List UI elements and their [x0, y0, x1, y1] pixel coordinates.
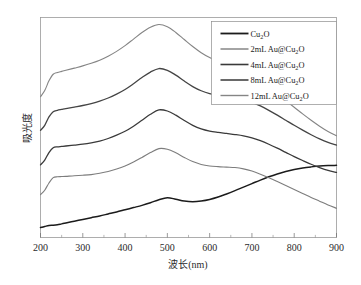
- x-tick-label-900: 900: [329, 242, 344, 253]
- x-tick-label-500: 500: [160, 242, 175, 253]
- x-tick-label-400: 400: [118, 242, 133, 253]
- x-axis-title: 波长(nm): [168, 258, 207, 271]
- x-tick-label-700: 700: [244, 242, 259, 253]
- x-tick-label-800: 800: [287, 242, 302, 253]
- legend-label-0[interactable]: Cu2O: [251, 30, 270, 40]
- x-tick-label-200: 200: [33, 242, 48, 253]
- spectra-plot: Cu2O2mL Au@Cu2O4mL Au@Cu2O8mL Au@Cu2O12m…: [0, 0, 361, 285]
- chart-legend[interactable]: Cu2O2mL Au@Cu2O4mL Au@Cu2O8mL Au@Cu2O12m…: [212, 22, 337, 105]
- chart-figure: Cu2O2mL Au@Cu2O4mL Au@Cu2O8mL Au@Cu2O12m…: [0, 0, 361, 285]
- x-tick-label-600: 600: [202, 242, 217, 253]
- y-axis-title: 吸光度: [21, 113, 33, 143]
- x-tick-label-300: 300: [75, 242, 90, 253]
